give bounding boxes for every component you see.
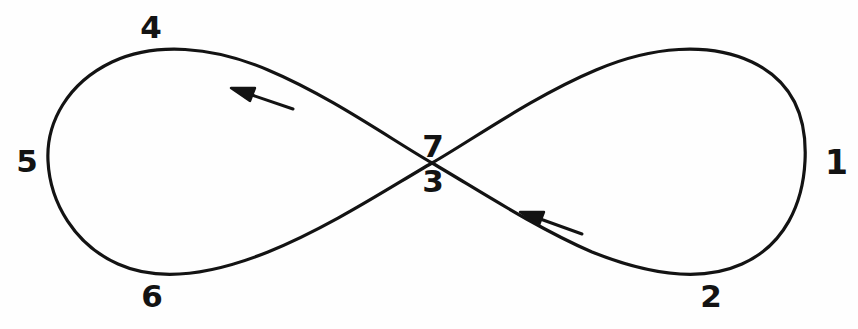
direction-arrow-upper <box>231 88 293 109</box>
point-label-1: 1 <box>825 146 847 179</box>
figure-eight-diagram: 1 2 3 4 5 6 7 <box>0 0 858 329</box>
point-label-7: 7 <box>422 131 444 162</box>
point-label-4: 4 <box>140 12 162 43</box>
point-label-5: 5 <box>16 146 38 177</box>
point-label-6: 6 <box>141 281 163 312</box>
point-label-2: 2 <box>700 281 722 312</box>
point-label-3: 3 <box>422 166 444 197</box>
